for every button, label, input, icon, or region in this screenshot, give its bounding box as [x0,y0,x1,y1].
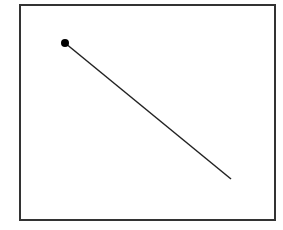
diagram-canvas [0,0,283,230]
frame-rectangle [20,5,275,220]
line-segment [65,43,231,179]
endpoint-dot [61,39,69,47]
